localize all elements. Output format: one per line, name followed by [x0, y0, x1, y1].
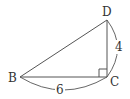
side-bd [20, 20, 107, 77]
right-angle-marker [99, 69, 107, 77]
vertex-label-b: B [8, 71, 17, 85]
vertex-label-d: D [102, 5, 112, 19]
triangle-diagram: D C B 4 6 [0, 0, 130, 99]
measure-label-cd: 4 [115, 40, 123, 54]
vertex-label-c: C [110, 75, 119, 89]
measure-label-bc: 6 [56, 83, 64, 97]
